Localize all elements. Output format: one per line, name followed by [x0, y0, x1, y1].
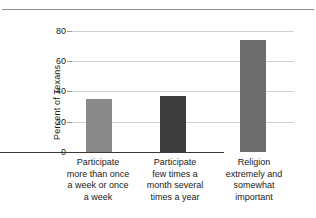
x-category-label-3-line-2: extremely and	[212, 169, 296, 181]
plot-area	[72, 31, 294, 152]
x-category-label-2-line-1: Participate	[134, 157, 216, 169]
y-tick-label-20: 20	[40, 118, 66, 127]
x-category-label-3: Religion extremely and somewhat importan…	[212, 157, 296, 203]
x-category-label-1-line-1: Participate	[56, 157, 140, 169]
bar-participate-monthly[interactable]	[160, 96, 186, 152]
x-category-label-1: Participate more than once a week or onc…	[56, 157, 140, 203]
y-tick-label-60: 60	[40, 57, 66, 66]
bar-participate-weekly[interactable]	[86, 99, 112, 152]
x-category-label-1-line-2: more than once	[56, 169, 140, 181]
y-tick-label-80: 80	[40, 27, 66, 36]
x-category-label-2-line-3: month several	[134, 180, 216, 192]
x-category-label-1-line-3: a week or once	[56, 180, 140, 192]
x-category-label-3-line-3: somewhat	[212, 180, 296, 192]
top-divider-rule	[2, 9, 314, 10]
x-category-label-2-line-2: few times a	[134, 169, 216, 181]
x-category-label-2-line-4: times a year	[134, 192, 216, 204]
x-category-label-3-line-1: Religion	[212, 157, 296, 169]
gridline-80	[72, 31, 294, 32]
chart-figure: Percent of Texans 80 60 40 20 0 Particip…	[0, 0, 316, 218]
x-category-label-1-line-4: a week	[56, 192, 140, 204]
x-category-label-3-line-4: important	[212, 192, 296, 204]
x-axis-baseline	[0, 152, 224, 153]
x-category-label-2: Participate few times a month several ti…	[134, 157, 216, 203]
bar-religion-important[interactable]	[240, 40, 266, 152]
y-tick-label-40: 40	[40, 87, 66, 96]
